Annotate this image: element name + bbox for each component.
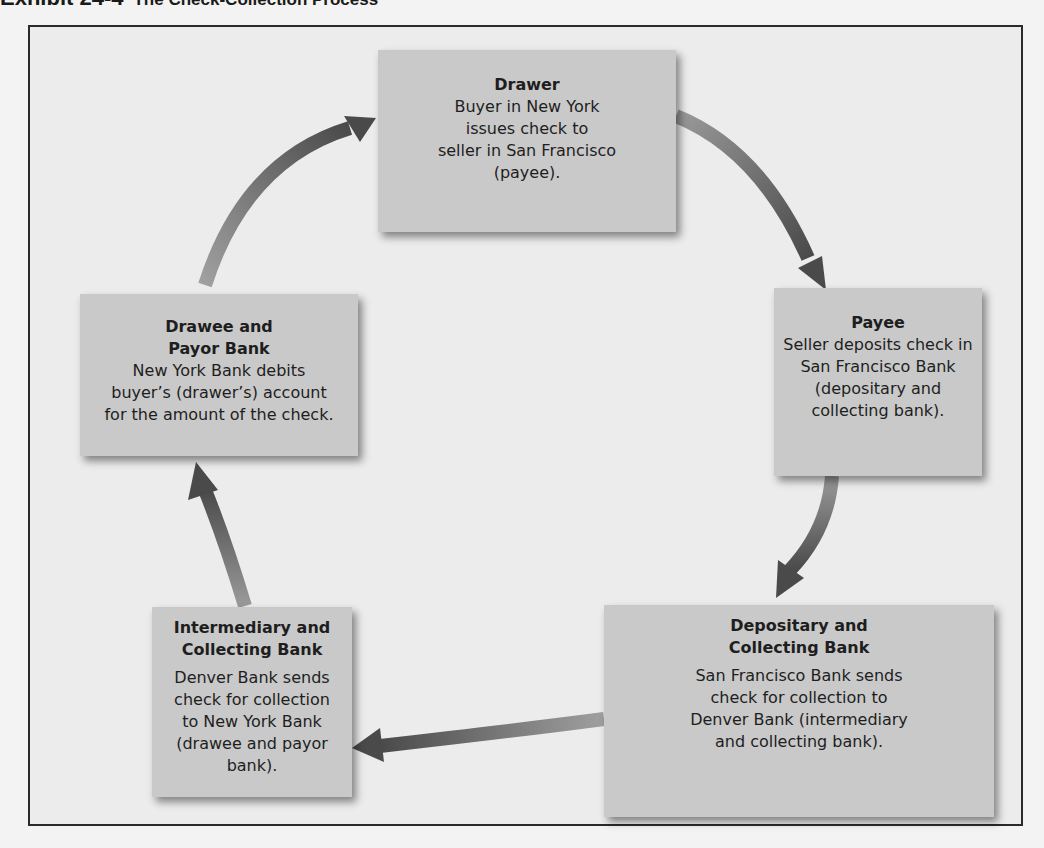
- node-text-line: Buyer in New York: [378, 96, 676, 118]
- node-text-line: (drawee and payor bank).: [152, 733, 352, 777]
- node-text-line: to New York Bank: [152, 711, 352, 733]
- node-heading: Payee: [774, 312, 982, 334]
- node-drawee: Drawee and Payor Bank New York Bank debi…: [80, 294, 358, 456]
- node-text-line: San Francisco Bank: [774, 356, 982, 378]
- arrow-drawer-to-payee: [676, 116, 826, 290]
- node-heading: Drawee and: [80, 316, 358, 338]
- node-text-line: buyer’s (drawer’s) account: [80, 382, 358, 404]
- node-heading: Intermediary and: [152, 617, 352, 639]
- node-text-line: and collecting bank).: [604, 731, 994, 753]
- arrow-intermediary-to-drawee: [188, 462, 245, 606]
- node-text-line: Denver Bank sends: [152, 667, 352, 689]
- node-text-line: San Francisco Bank sends: [604, 665, 994, 687]
- arrow-payee-to-depositary: [776, 476, 832, 598]
- node-heading: Collecting Bank: [152, 639, 352, 661]
- node-depositary: Depositary and Collecting Bank San Franc…: [604, 605, 994, 817]
- node-text-line: Denver Bank (intermediary: [604, 709, 994, 731]
- node-text-line: Seller deposits check in: [774, 334, 982, 356]
- node-text-line: for the amount of the check.: [80, 404, 358, 426]
- node-heading: Depositary and: [604, 615, 994, 637]
- node-intermediary: Intermediary and Collecting Bank Denver …: [152, 607, 352, 797]
- arrow-depositary-to-intermediary: [352, 719, 604, 762]
- node-heading: Drawer: [378, 74, 676, 96]
- arrow-drawee-to-drawer: [205, 116, 376, 285]
- node-heading: Payor Bank: [80, 338, 358, 360]
- node-payee: Payee Seller deposits check in San Franc…: [774, 288, 982, 476]
- node-text-line: New York Bank debits: [80, 360, 358, 382]
- node-text-line: issues check to: [378, 118, 676, 140]
- node-text-line: check for collection: [152, 689, 352, 711]
- node-heading: Collecting Bank: [604, 637, 994, 659]
- node-drawer: Drawer Buyer in New York issues check to…: [378, 50, 676, 232]
- node-text-line: (payee).: [378, 162, 676, 184]
- node-text-line: (depositary and: [774, 378, 982, 400]
- node-text-line: seller in San Francisco: [378, 140, 676, 162]
- node-text-line: check for collection to: [604, 687, 994, 709]
- node-text-line: collecting bank).: [774, 400, 982, 422]
